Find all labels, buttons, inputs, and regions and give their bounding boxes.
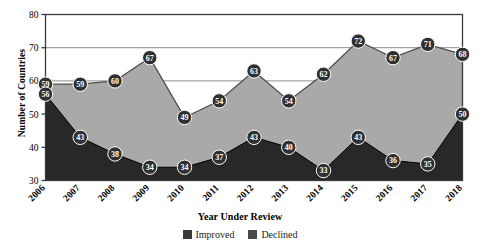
declined-value-label: 33 bbox=[320, 166, 328, 175]
improved-value-label: 59 bbox=[76, 80, 84, 89]
legend-swatch-declined bbox=[248, 230, 257, 239]
y-tick-label: 70 bbox=[29, 43, 39, 53]
chart-container: 304050607080 200620072008200920102011201… bbox=[0, 0, 480, 250]
x-tick-label: 2018 bbox=[443, 183, 464, 204]
improved-value-label: 62 bbox=[320, 70, 328, 79]
legend-label-declined: Declined bbox=[261, 229, 297, 240]
declined-value-label: 50 bbox=[459, 110, 467, 119]
x-tick-label: 2012 bbox=[235, 183, 256, 204]
improved-value-label: 63 bbox=[250, 67, 258, 76]
x-tick-label: 2008 bbox=[96, 183, 117, 204]
x-tick-label: 2014 bbox=[304, 183, 325, 204]
improved-value-label: 60 bbox=[111, 77, 119, 86]
declined-value-label: 40 bbox=[285, 143, 293, 152]
declined-value-label: 56 bbox=[42, 90, 50, 99]
declined-value-label: 38 bbox=[111, 150, 119, 159]
improved-value-label: 49 bbox=[181, 113, 189, 122]
y-tick-label: 60 bbox=[29, 76, 39, 86]
legend-swatch-improved bbox=[183, 230, 192, 239]
x-tick-label: 2011 bbox=[201, 183, 221, 203]
improved-value-label: 67 bbox=[146, 54, 154, 63]
x-tick-label: 2013 bbox=[270, 183, 291, 204]
legend-label-improved: Improved bbox=[196, 229, 235, 240]
x-axis-title: Year Under Review bbox=[0, 211, 480, 222]
declined-value-label: 35 bbox=[424, 160, 432, 169]
x-tick-label: 2017 bbox=[409, 183, 430, 204]
x-tick-label: 2010 bbox=[165, 183, 186, 204]
improved-value-label: 71 bbox=[424, 40, 432, 49]
y-tick-label: 40 bbox=[29, 143, 39, 153]
declined-value-label: 43 bbox=[250, 133, 258, 142]
y-tick-label: 80 bbox=[29, 10, 39, 20]
x-axis-ticks: 2006200720082009201020112012201320142015… bbox=[26, 183, 464, 204]
y-tick-label: 50 bbox=[29, 110, 39, 120]
declined-value-label: 34 bbox=[146, 163, 154, 172]
declined-value-label: 36 bbox=[389, 156, 397, 165]
improved-value-label: 68 bbox=[459, 50, 467, 59]
declined-value-label: 34 bbox=[181, 163, 189, 172]
x-tick-label: 2015 bbox=[339, 183, 360, 204]
y-axis-title: Number of Countries bbox=[17, 28, 27, 158]
legend-item-declined: Declined bbox=[248, 229, 297, 240]
x-tick-label: 2016 bbox=[374, 183, 395, 204]
x-tick-label: 2007 bbox=[61, 183, 82, 204]
improved-value-label: 54 bbox=[215, 97, 223, 106]
improved-value-label: 72 bbox=[354, 37, 362, 46]
declined-value-label: 37 bbox=[215, 153, 223, 162]
declined-value-label: 43 bbox=[76, 133, 84, 142]
declined-value-label: 43 bbox=[354, 133, 362, 142]
legend-item-improved: Improved bbox=[183, 229, 235, 240]
chart-legend: Improved Declined bbox=[0, 229, 480, 240]
improved-value-label: 67 bbox=[389, 54, 397, 63]
x-tick-label: 2009 bbox=[131, 183, 152, 204]
improved-value-label: 54 bbox=[285, 97, 293, 106]
